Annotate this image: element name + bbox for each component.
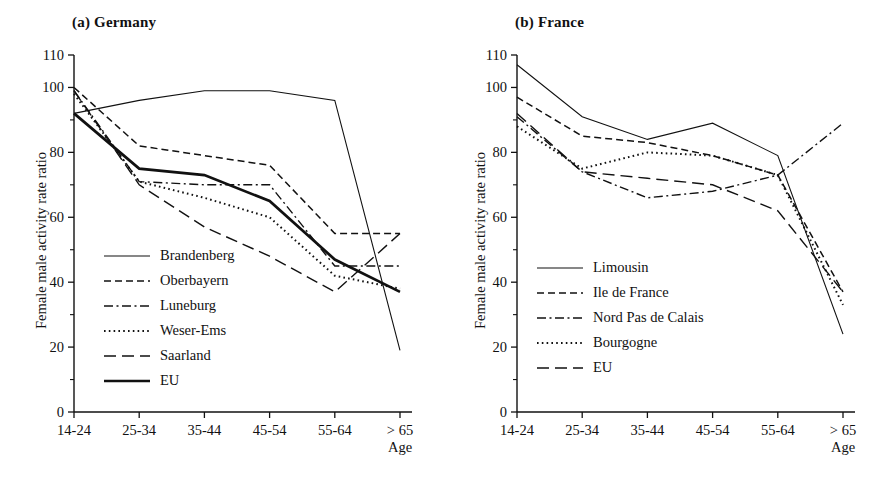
y-tick-label: 60 xyxy=(493,209,508,225)
legend-label: Weser-Ems xyxy=(160,322,227,338)
series-line xyxy=(517,126,843,305)
legend-label: Bourgogne xyxy=(593,334,657,350)
x-tick-label: 45-54 xyxy=(696,422,731,438)
y-tick-label: 60 xyxy=(50,209,65,225)
legend-label: EU xyxy=(593,359,613,375)
y-tick-label: 40 xyxy=(50,274,65,290)
legend-label: Luneburg xyxy=(160,297,216,313)
x-tick-label: > 65 xyxy=(830,422,856,438)
germany-x-ticks: 14-2425-3435-4445-5455-64> 65 xyxy=(57,412,413,438)
x-tick-label: 25-34 xyxy=(565,422,600,438)
france-legend: LimousinIle de FranceNord Pas de CalaisB… xyxy=(537,259,704,375)
series-line xyxy=(517,113,843,292)
series-line xyxy=(74,94,400,289)
figure-root: (a) Germany Female male activity rate ra… xyxy=(0,0,871,486)
y-tick-label: 110 xyxy=(486,47,507,63)
legend-label: Nord Pas de Calais xyxy=(593,309,704,325)
germany-legend: BrandenbergOberbayernLuneburgWeser-EmsSa… xyxy=(104,247,235,388)
y-tick-label: 0 xyxy=(500,404,507,420)
legend-label: EU xyxy=(160,372,180,388)
x-tick-label: 55-64 xyxy=(318,422,353,438)
legend-label: Brandenberg xyxy=(160,247,235,263)
x-tick-label: 14-24 xyxy=(500,422,535,438)
panel-germany: (a) Germany Female male activity rate ra… xyxy=(0,0,435,486)
legend-label: Saarland xyxy=(160,347,211,363)
legend-label: Limousin xyxy=(593,259,649,275)
series-line xyxy=(74,91,400,266)
series-line xyxy=(74,91,400,351)
x-tick-label: 25-34 xyxy=(122,422,157,438)
x-tick-label: 14-24 xyxy=(57,422,92,438)
y-tick-label: 0 xyxy=(57,404,64,420)
panel-france-plot: 020406080100110 14-2425-3435-4445-5455-6… xyxy=(425,0,871,486)
france-axes xyxy=(517,55,855,412)
y-tick-label: 40 xyxy=(493,274,508,290)
x-tick-label: > 65 xyxy=(387,422,413,438)
series-line xyxy=(74,91,400,292)
germany-y-ticks: 020406080100110 xyxy=(42,47,74,420)
germany-x-axis-label: Age xyxy=(388,439,412,455)
x-tick-label: 45-54 xyxy=(253,422,288,438)
legend-label: Oberbayern xyxy=(160,272,229,288)
x-tick-label: 55-64 xyxy=(761,422,796,438)
panel-france: (b) France Female male activity rate rat… xyxy=(425,0,860,486)
france-x-ticks: 14-2425-3435-4445-5455-64> 65 xyxy=(500,412,856,438)
x-tick-label: 35-44 xyxy=(630,422,665,438)
germany-axes xyxy=(74,55,412,412)
y-tick-label: 100 xyxy=(485,79,507,95)
y-tick-label: 80 xyxy=(50,144,65,160)
y-tick-label: 110 xyxy=(43,47,64,63)
x-tick-label: 35-44 xyxy=(187,422,222,438)
y-tick-label: 20 xyxy=(50,339,65,355)
legend-label: Ile de France xyxy=(593,284,669,300)
y-tick-label: 20 xyxy=(493,339,508,355)
y-tick-label: 100 xyxy=(42,79,64,95)
series-line xyxy=(74,113,400,292)
france-y-ticks: 020406080100110 xyxy=(485,47,517,420)
france-x-axis-label: Age xyxy=(831,439,855,455)
y-tick-label: 80 xyxy=(493,144,508,160)
panel-germany-plot: 020406080100110 14-2425-3435-4445-5455-6… xyxy=(0,0,435,486)
germany-series-group xyxy=(74,88,400,351)
